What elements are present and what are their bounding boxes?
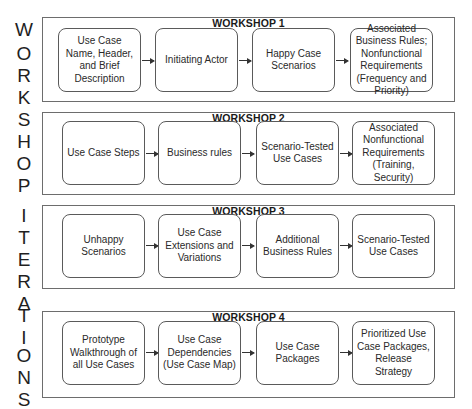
arrow-right-icon [242, 245, 254, 246]
workshop-3-step-1: Unhappy Scenarios [62, 214, 145, 278]
arrow-right-icon [340, 153, 352, 154]
arrow-right-icon [146, 352, 158, 353]
side-letter: S [14, 390, 34, 409]
workshop-1-step-4: Associated Business Rules; Nonfunctional… [350, 28, 433, 92]
arrow-right-icon [239, 60, 251, 61]
arrow-right-icon [146, 153, 158, 154]
side-letter: O [14, 44, 34, 63]
workshop-4-step-1: Prototype Walkthrough of all Use Cases [62, 321, 145, 385]
workshop-4-step-3: Use Case Packages [256, 321, 339, 385]
side-letter: T [14, 306, 34, 325]
workshop-1-step-2: Initiating Actor [155, 28, 238, 92]
workshop-1-step-1: Use Case Name, Header, and Brief Descrip… [58, 28, 141, 92]
side-letter: N [14, 368, 34, 387]
side-letter: T [14, 228, 34, 247]
arrow-right-icon [142, 60, 154, 61]
workshop-3-step-2: Use Case Extensions and Variations [158, 214, 241, 278]
workshop-3-step-4: Scenario-Tested Use Cases [352, 214, 435, 278]
arrow-right-icon [336, 60, 348, 61]
side-letter: O [14, 154, 34, 173]
workshop-3-step-3: Additional Business Rules [256, 214, 339, 278]
side-letter: E [14, 250, 34, 269]
arrow-right-icon [340, 245, 352, 246]
workshop-2-step-1: Use Case Steps [62, 121, 145, 185]
arrow-right-icon [340, 352, 352, 353]
side-letter: K [14, 88, 34, 107]
arrow-right-icon [242, 153, 254, 154]
workshop-1-step-3: Happy Case Scenarios [252, 28, 335, 92]
side-letter: W [14, 20, 34, 39]
side-letter: R [14, 272, 34, 291]
side-letter: I [14, 206, 34, 225]
side-letter: H [14, 132, 34, 151]
workshop-4-step-4: Prioritized Use Case Packages, Release S… [352, 321, 435, 385]
side-letter: P [14, 176, 34, 195]
workshop-2-step-4: Associated Nonfunctional Requirements (T… [352, 121, 435, 185]
side-letter: S [14, 110, 34, 129]
workshop-2-step-2: Business rules [158, 121, 241, 185]
arrow-right-icon [242, 352, 254, 353]
workshop-2-step-3: Scenario-Tested Use Cases [256, 121, 339, 185]
arrow-right-icon [146, 245, 158, 246]
side-letter: O [14, 346, 34, 365]
workshop-4-step-2: Use Case Dependencies (Use Case Map) [158, 321, 241, 385]
side-letter: R [14, 66, 34, 85]
